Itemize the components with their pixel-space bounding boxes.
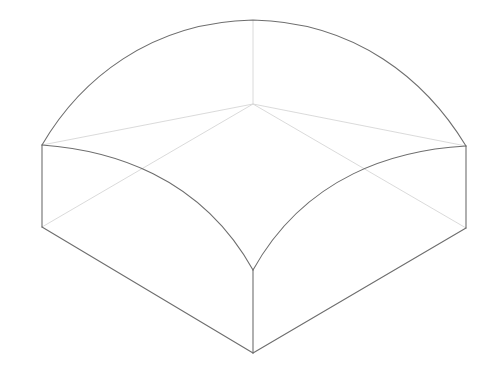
visible-edges (42, 20, 466, 353)
bottom-left-edge (42, 227, 253, 353)
wireframe-drawing (0, 0, 492, 375)
hidden-left-top-edge (42, 104, 253, 145)
bottom-right-edge (253, 228, 466, 353)
dome-back-arc (42, 20, 466, 146)
hidden-right-bottom-edge (253, 104, 466, 228)
front-right-arc (253, 146, 466, 270)
hidden-left-bottom-edge (42, 104, 253, 227)
front-left-arc (42, 145, 253, 270)
hidden-right-top-edge (253, 104, 466, 146)
hidden-edges (42, 20, 466, 228)
